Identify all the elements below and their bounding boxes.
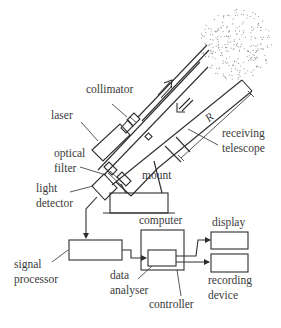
label-laser: laser — [51, 108, 73, 123]
display-box — [211, 232, 248, 249]
scattering-cloud — [200, 9, 272, 80]
recording-device-box — [211, 254, 248, 272]
label-signal-processor-line1: signal — [14, 257, 58, 272]
label-signal-processor-line2: processor — [14, 272, 58, 287]
label-light-detector-line2: detector — [36, 196, 73, 211]
analyser-to-recording-line — [176, 259, 210, 265]
label-collimator: collimator — [86, 82, 133, 97]
label-computer: computer — [139, 213, 182, 228]
label-display: display — [212, 215, 245, 230]
label-receiving-telescope-line2: telescope — [222, 141, 265, 156]
light-detector-leader — [70, 186, 93, 192]
label-light-detector-line1: light — [36, 181, 73, 196]
label-signal-processor: signal processor — [14, 257, 58, 287]
laser-beam — [138, 45, 209, 121]
label-optical-filter-line2: filter — [54, 161, 85, 176]
label-receiving-telescope: receiving telescope — [222, 126, 265, 156]
label-light-detector: light detector — [36, 181, 73, 211]
return-beam-arrow — [177, 98, 193, 112]
collimator-leader — [112, 104, 127, 117]
detector-to-processor-line — [83, 197, 97, 239]
label-data-analyser-line2: analyser — [110, 283, 148, 298]
label-data-analyser: data analyser — [110, 268, 148, 298]
controller-leader — [177, 270, 181, 296]
label-optical-filter: optical filter — [54, 146, 85, 176]
label-optical-filter-line1: optical — [54, 146, 85, 161]
label-recording-device: recording device — [208, 273, 252, 303]
signal-processor-box — [69, 240, 122, 260]
label-recording-device-line1: recording — [208, 273, 252, 288]
tube-marker — [145, 133, 152, 140]
laser-box — [92, 113, 140, 161]
laser-leader — [81, 122, 98, 141]
label-data-analyser-line1: data — [110, 268, 148, 283]
optical-filter — [104, 162, 131, 186]
label-recording-device-line2: device — [208, 288, 252, 303]
label-mount: mount — [142, 168, 171, 183]
data-analyser-box — [148, 250, 176, 266]
analyser-to-display-line — [176, 237, 211, 256]
label-receiving-telescope-line1: receiving — [222, 126, 265, 141]
label-controller: controller — [149, 297, 194, 312]
processor-to-analyser-line — [122, 250, 147, 261]
